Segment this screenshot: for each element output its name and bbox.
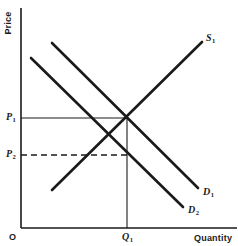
quantity-tick-q1-subscript: 1: [130, 236, 133, 243]
curve-label-s1: S1: [206, 32, 215, 43]
demand-curve-d2: [31, 58, 183, 207]
curve-label-d2: D2: [188, 204, 198, 215]
price-tick-p2-base: P: [6, 148, 12, 159]
price-tick-p1: P1: [6, 111, 15, 122]
price-tick-p1-subscript: 1: [13, 116, 16, 123]
curve-label-d2-subscript: 2: [196, 209, 199, 216]
curve-label-d2-base: D: [188, 204, 195, 215]
price-tick-p2: P2: [6, 148, 15, 159]
demand-curve-d1: [52, 43, 198, 188]
price-tick-p2-subscript: 2: [13, 153, 16, 160]
curve-label-s1-subscript: 1: [212, 37, 215, 44]
diagram-canvas: [0, 0, 238, 246]
price-tick-p1-base: P: [6, 111, 12, 122]
curve-label-d1-subscript: 1: [211, 191, 214, 198]
y-axis-title: Price: [3, 3, 13, 43]
origin-label: O: [9, 232, 16, 242]
curve-label-s1-base: S: [206, 32, 212, 43]
curve-label-d1: D1: [203, 186, 213, 197]
curve-label-d1-base: D: [203, 186, 210, 197]
quantity-tick-q1: Q1: [122, 231, 132, 242]
supply-demand-diagram: Price Quantity O P1 P2 Q1 S1 D1 D2: [0, 0, 238, 246]
x-axis-title: Quantity: [194, 233, 232, 243]
quantity-tick-q1-base: Q: [122, 231, 129, 242]
